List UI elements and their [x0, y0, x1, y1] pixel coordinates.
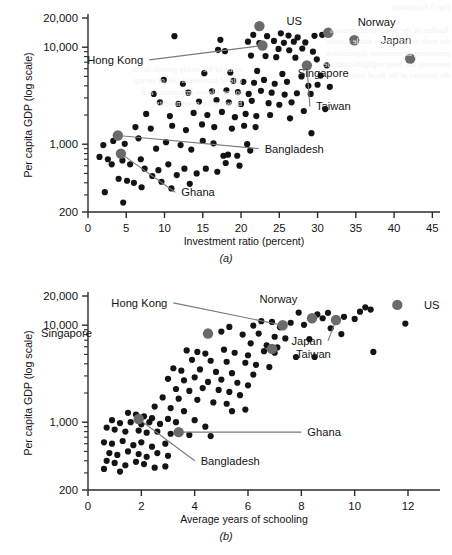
data-point: [221, 347, 227, 353]
data-point: [286, 47, 292, 53]
data-point: [180, 81, 186, 87]
data-point: [96, 154, 102, 160]
y-tick-label: 200: [59, 484, 78, 496]
data-point: [250, 32, 256, 38]
data-point: [232, 114, 238, 120]
data-point: [273, 54, 279, 60]
data-point: [176, 396, 182, 402]
panel-caption: (b): [219, 530, 232, 542]
x-axis-title: Investment ratio (percent): [184, 235, 305, 247]
annotation-label: Bangladesh: [265, 143, 324, 155]
data-point: [272, 334, 278, 340]
data-point: [265, 100, 271, 106]
data-point: [114, 452, 120, 458]
data-point: [235, 89, 241, 95]
data-point: [242, 360, 248, 366]
annotation-label: Hong Kong: [111, 297, 167, 309]
data-point: [276, 102, 282, 108]
data-point: [165, 416, 171, 422]
data-point: [122, 462, 128, 468]
highlighted-data-point: [203, 328, 213, 338]
data-point: [338, 331, 344, 337]
x-tick-label: 6: [245, 500, 251, 512]
data-point: [237, 392, 243, 398]
data-point: [225, 152, 231, 158]
data-point: [248, 340, 254, 346]
annotation-label: Taiwan: [296, 348, 331, 360]
data-point: [170, 365, 176, 371]
data-point: [192, 417, 198, 423]
data-point: [185, 90, 191, 96]
data-point: [242, 406, 248, 412]
data-point: [314, 82, 320, 88]
data-point: [301, 108, 307, 114]
highlighted-data-point: [323, 28, 333, 38]
data-point: [229, 370, 235, 376]
data-point: [173, 386, 179, 392]
chart-panel-b: 2001,00010,00020,000024681012Average yea…: [22, 290, 440, 542]
data-point: [203, 166, 209, 172]
data-point: [248, 52, 254, 58]
data-point: [223, 160, 229, 166]
data-point: [167, 113, 173, 119]
data-point: [161, 77, 167, 83]
data-point: [104, 458, 110, 464]
data-point: [106, 450, 112, 456]
data-point: [112, 460, 118, 466]
data-point: [112, 426, 118, 432]
data-point: [285, 32, 291, 38]
data-point: [184, 347, 190, 353]
data-point: [219, 109, 225, 115]
data-point: [282, 335, 288, 341]
data-point: [194, 397, 200, 403]
data-point: [314, 56, 320, 62]
data-point: [122, 141, 128, 147]
data-point: [256, 330, 262, 336]
panel-caption: (a): [219, 252, 232, 264]
highlighted-data-point: [113, 130, 123, 140]
data-point: [294, 90, 300, 96]
data-point: [138, 156, 144, 162]
data-point: [226, 389, 232, 395]
data-point: [213, 97, 219, 103]
data-point: [218, 376, 224, 382]
y-tick-label: 20,000: [43, 290, 78, 302]
data-point: [275, 46, 281, 52]
data-point: [234, 153, 240, 159]
y-axis-title: Per capita GDP (log scale): [22, 52, 34, 177]
data-point: [370, 349, 376, 355]
x-tick-label: 35: [349, 222, 362, 234]
data-point: [217, 37, 223, 43]
data-point: [138, 184, 144, 190]
data-point: [181, 166, 187, 172]
data-point: [240, 332, 246, 338]
data-point: [241, 123, 247, 129]
data-point: [240, 79, 246, 85]
x-tick-label: 40: [388, 222, 401, 234]
data-point: [245, 382, 251, 388]
data-point: [234, 380, 240, 386]
data-point: [269, 319, 275, 325]
data-point: [210, 140, 216, 146]
data-point: [165, 161, 171, 167]
data-point: [222, 48, 228, 54]
highlighted-data-point: [307, 313, 317, 323]
x-tick-label: 30: [311, 222, 324, 234]
data-point: [214, 169, 220, 175]
data-point: [136, 427, 142, 433]
data-point: [100, 142, 106, 148]
data-point: [269, 90, 275, 96]
data-point: [154, 450, 160, 456]
data-point: [208, 358, 214, 364]
data-point: [197, 366, 203, 372]
highlighted-data-point: [267, 344, 277, 354]
data-point: [162, 463, 168, 469]
data-point: [299, 45, 305, 51]
data-point: [236, 163, 242, 169]
data-point: [261, 77, 267, 83]
x-tick-label: 10: [348, 500, 361, 512]
data-point: [252, 124, 258, 130]
data-point: [352, 316, 358, 322]
data-point: [171, 33, 177, 39]
data-point: [174, 172, 180, 178]
